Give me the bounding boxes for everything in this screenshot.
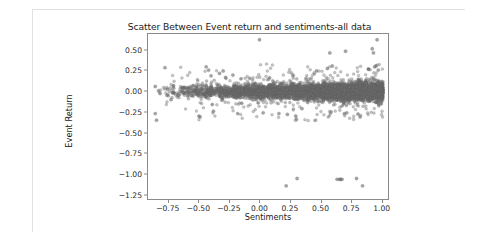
- y-tick-label: 0.00: [96, 87, 142, 96]
- x-tick-mark: [229, 200, 230, 203]
- y-tick-label: −0.25: [96, 107, 142, 116]
- matplotlib-figure: Scatter Between Event return and sentime…: [33, 10, 466, 233]
- y-tick-label: 0.25: [96, 66, 142, 75]
- y-tick-label: −1.25: [96, 191, 142, 200]
- scatter-points-layer: [148, 34, 388, 199]
- scatter-plot-area: [148, 34, 388, 199]
- x-tick-mark: [290, 200, 291, 203]
- x-axis-label: Sentiments: [147, 212, 389, 222]
- x-tick-label: 1.00: [362, 204, 402, 213]
- chart-title: Scatter Between Event return and sentime…: [33, 21, 466, 32]
- y-axis-label: Event Return: [64, 61, 74, 181]
- x-tick-mark: [259, 200, 260, 203]
- x-tick-mark: [321, 200, 322, 203]
- x-tick-mark: [198, 200, 199, 203]
- x-tick-mark: [351, 200, 352, 203]
- y-tick-label: −0.50: [96, 128, 142, 137]
- screenshot-page: Scatter Between Event return and sentime…: [0, 0, 502, 249]
- plot-axes-frame: [147, 33, 389, 200]
- x-tick-mark: [382, 200, 383, 203]
- figure-card: Scatter Between Event return and sentime…: [32, 9, 465, 232]
- y-tick-label: −1.00: [96, 170, 142, 179]
- y-tick-label: −0.75: [96, 149, 142, 158]
- y-tick-label: 0.50: [96, 45, 142, 54]
- x-tick-mark: [168, 200, 169, 203]
